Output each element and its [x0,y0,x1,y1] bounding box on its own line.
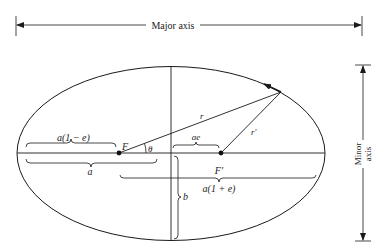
focus-f-dot [117,151,122,156]
label-r: r [200,111,204,121]
brace-ae [173,142,219,148]
focus-f-prime-dot [219,151,224,156]
label-focus-f-prime: F′ [214,165,224,176]
minor-axis-label-line1: Minor [353,143,363,166]
label-focus-f: F [121,141,129,152]
major-axis-label: Major axis [151,20,194,31]
label-a-one-minus-e: a(1 − e) [57,132,91,144]
label-a: a [88,166,93,177]
minor-axis-dimension: Minor axis [353,65,373,241]
radius-r-prime-line [221,92,281,153]
label-r-prime: r′ [251,127,258,137]
velocity-arrow [264,84,281,92]
brace-b [174,156,181,239]
minor-axis-label-line2: axis [363,146,373,161]
label-b: b [183,191,188,202]
radius-r-line [119,92,281,153]
ellipse-diagram: Major axis Minor axis a(1 − e) F θ a ae … [0,0,384,252]
theta-arc [145,144,147,154]
major-axis-dimension: Major axis [16,16,362,36]
label-a-one-plus-e: a(1 + e) [203,183,237,195]
label-ae: ae [192,132,201,142]
label-theta: θ [148,144,153,154]
brace-a-one-plus-e [120,175,316,182]
